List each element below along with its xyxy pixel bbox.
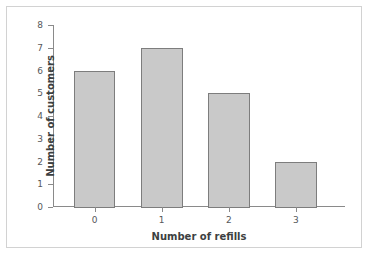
x-tick-label: 2 (214, 215, 244, 225)
y-tick-label: 2 (19, 158, 43, 167)
bar (74, 71, 116, 209)
y-tick (48, 207, 53, 208)
x-tick-label: 1 (147, 215, 177, 225)
y-axis-title: Number of customers (44, 25, 58, 207)
y-tick-label: 4 (19, 112, 43, 121)
x-tick-label: 0 (80, 215, 110, 225)
x-tick (229, 207, 230, 212)
x-tick (95, 207, 96, 212)
y-tick-label: 5 (19, 89, 43, 98)
y-tick-label: 7 (19, 44, 43, 53)
bar (141, 48, 183, 208)
bar (275, 162, 317, 209)
plot-area: 012345678 0123 Number of customers Numbe… (53, 25, 345, 207)
x-tick (296, 207, 297, 212)
y-tick-label: 6 (19, 67, 43, 76)
y-tick-label: 3 (19, 135, 43, 144)
x-tick-label: 3 (281, 215, 311, 225)
y-tick-label: 1 (19, 180, 43, 189)
x-tick (162, 207, 163, 212)
y-tick-label: 0 (19, 203, 43, 212)
bar (208, 93, 250, 208)
chart-page: 012345678 0123 Number of customers Numbe… (6, 6, 362, 248)
x-axis-title: Number of refills (53, 231, 345, 243)
y-tick-label: 8 (19, 21, 43, 30)
